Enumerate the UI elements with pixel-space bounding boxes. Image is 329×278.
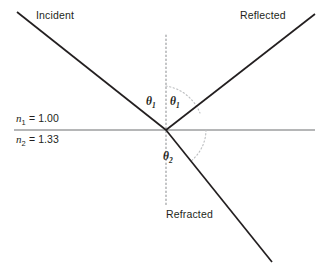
n1-value: = 1.00 — [26, 112, 59, 124]
angle-label-theta2-refracted: θ2 — [163, 151, 173, 163]
angle-label-theta1-incident: θ1 — [146, 96, 156, 108]
medium-index-n1: n1 = 1.00 — [16, 113, 59, 124]
n2-subscript: 2 — [22, 139, 26, 148]
n1-symbol: n — [16, 112, 22, 124]
incident-ray-label: Incident — [36, 10, 74, 21]
theta1-subscript-reflected: 1 — [176, 101, 180, 110]
angle-arc-refracted — [191, 130, 206, 161]
reflected-ray-label: Reflected — [240, 10, 286, 21]
n1-subscript: 1 — [22, 118, 26, 127]
refraction-diagram: Incident Reflected Refracted n1 = 1.00 n… — [0, 0, 329, 278]
n2-value: = 1.33 — [26, 133, 59, 145]
refracted-ray-label: Refracted — [166, 209, 213, 220]
angle-label-theta1-reflected: θ1 — [170, 96, 180, 108]
n2-symbol: n — [16, 133, 22, 145]
theta2-subscript-refracted: 2 — [169, 156, 173, 165]
medium-index-n2: n2 = 1.33 — [16, 134, 59, 145]
refracted-ray — [166, 130, 272, 262]
reflected-ray — [166, 14, 315, 130]
theta1-subscript-incident: 1 — [152, 101, 156, 110]
